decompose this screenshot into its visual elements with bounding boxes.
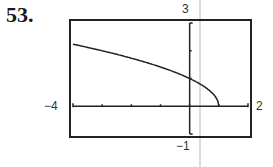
axes (73, 23, 248, 134)
function-curve (73, 44, 219, 106)
viewing-window-frame (70, 20, 251, 137)
graph (0, 0, 273, 167)
